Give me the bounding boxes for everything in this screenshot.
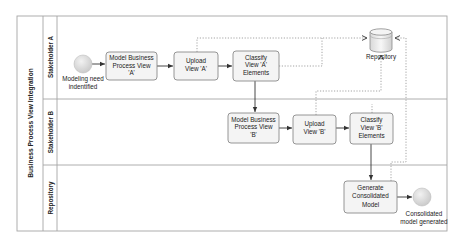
end-event-icon — [413, 188, 431, 206]
task-model-view-a-line1: Model Business — [109, 54, 153, 61]
task-classify-view-a-line2: View 'A' — [245, 61, 267, 68]
start-event-label-1: Modeling need — [62, 75, 104, 83]
end-event-label-2: model generated — [400, 218, 448, 226]
task-classify-view-b-line1: Classify — [360, 116, 383, 124]
task-model-view-b[interactable]: Model Business Process View 'B' — [228, 113, 279, 143]
pool-title: Business Process View Integration — [27, 68, 35, 177]
lane-label-repository: Repository — [47, 181, 55, 214]
task-classify-view-b[interactable]: Classify View 'B' Elements — [350, 113, 393, 144]
task-classify-view-b-line2: View 'B' — [361, 124, 383, 131]
task-model-view-a-line3: 'A' — [128, 69, 135, 76]
task-model-view-a-line2: Process View — [112, 62, 150, 69]
end-event-label-1: Consolidated — [406, 210, 443, 217]
start-event-icon — [74, 55, 92, 73]
task-upload-view-b-line2: View 'B' — [304, 128, 326, 135]
task-model-view-b-line2: Process View — [234, 123, 272, 130]
database-cylinder-icon — [370, 29, 392, 52]
task-upload-view-a-line2: View 'A' — [185, 65, 207, 72]
task-generate-line1: Generate — [357, 184, 384, 191]
task-classify-view-a-line3: Elements — [243, 69, 269, 76]
data-store-repository[interactable]: Repository — [366, 29, 397, 61]
task-upload-view-b[interactable]: Upload View 'B' — [293, 115, 336, 144]
task-upload-view-a[interactable]: Upload View 'A' — [174, 52, 218, 80]
lane-label-stakeholder-a: Stakeholder A — [47, 35, 54, 78]
task-classify-view-a[interactable]: Classify View 'A' Elements — [233, 51, 279, 81]
lane-label-stakeholder-b: Stakeholder B — [47, 110, 54, 153]
data-store-label: Repository — [366, 53, 397, 61]
task-upload-view-a-line1: Upload — [186, 57, 206, 65]
start-event-label-2: indentified — [69, 83, 98, 90]
task-generate-consolidated-model[interactable]: Generate Consolidated Model — [344, 181, 397, 213]
task-model-view-a[interactable]: Model Business Process View 'A' — [106, 52, 157, 80]
task-upload-view-b-line1: Upload — [305, 120, 325, 128]
task-model-view-b-line1: Model Business — [231, 116, 275, 123]
task-generate-line3: Model — [362, 201, 379, 208]
task-classify-view-b-line3: Elements — [358, 132, 384, 139]
task-model-view-b-line3: 'B' — [250, 131, 257, 138]
bpmn-diagram: Business Process View Integration Stakeh… — [0, 0, 465, 248]
task-generate-line2: Consolidated — [352, 192, 389, 199]
